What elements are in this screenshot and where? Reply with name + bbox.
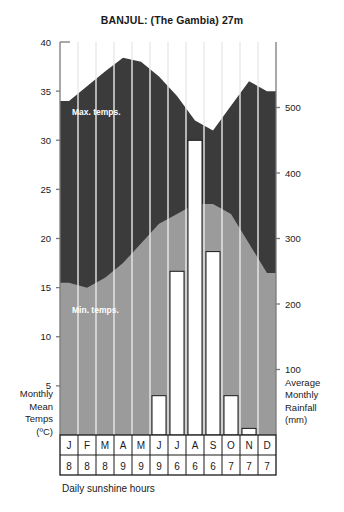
sunshine-hours-value: 7: [264, 461, 270, 472]
sunshine-hours-value: 7: [246, 461, 252, 472]
left-tick-label: 40: [40, 37, 51, 48]
sunshine-hours-value: 7: [228, 461, 234, 472]
footer-caption: Daily sunshine hours: [62, 483, 155, 494]
rainfall-bar: [188, 140, 202, 435]
chart-svg: 510152025303540100200300400500Max. temps…: [0, 0, 344, 512]
month-label: M: [137, 440, 145, 451]
right-axis-caption-line: (mm): [285, 414, 307, 425]
month-label: M: [101, 440, 109, 451]
right-tick-label: 100: [285, 364, 301, 375]
month-label: J: [67, 440, 72, 451]
left-tick-label: 10: [40, 331, 51, 342]
right-tick-label: 200: [285, 299, 301, 310]
sunshine-hours-value: 8: [84, 461, 90, 472]
sunshine-hours-value: 9: [156, 461, 162, 472]
right-tick-label: 400: [285, 168, 301, 179]
left-tick-label: 15: [40, 282, 51, 293]
right-axis-caption-line: Monthly: [285, 389, 319, 400]
month-label: J: [175, 440, 180, 451]
sunshine-hours-value: 9: [120, 461, 126, 472]
rainfall-bar: [206, 252, 220, 435]
rainfall-bar: [224, 396, 238, 435]
left-axis-caption-line: Monthly: [20, 388, 54, 399]
left-axis-caption-line: Temps: [25, 413, 53, 424]
month-label: F: [84, 440, 90, 451]
month-label: A: [120, 440, 127, 451]
sunshine-hours-value: 9: [138, 461, 144, 472]
rainfall-bar: [242, 428, 256, 435]
left-tick-label: 35: [40, 86, 51, 97]
sunshine-hours-value: 6: [210, 461, 216, 472]
month-label: O: [227, 440, 235, 451]
left-tick-label: 20: [40, 233, 51, 244]
min-temps-label: Min. temps.: [72, 305, 119, 315]
left-axis-caption-line: (ºC): [36, 426, 53, 437]
month-label: J: [157, 440, 162, 451]
right-axis-caption-line: Rainfall: [285, 402, 317, 413]
month-label: A: [192, 440, 199, 451]
climate-graph: BANJUL: (The Gambia) 27m 510152025303540…: [0, 0, 344, 512]
left-tick-label: 25: [40, 184, 51, 195]
left-axis-caption-line: Mean: [29, 401, 53, 412]
max-temps-label: Max. temps.: [72, 107, 121, 117]
sunshine-hours-value: 8: [102, 461, 108, 472]
month-label: N: [245, 440, 252, 451]
right-tick-label: 300: [285, 233, 301, 244]
left-tick-label: 30: [40, 135, 51, 146]
sunshine-hours-value: 6: [174, 461, 180, 472]
rainfall-bar: [152, 396, 166, 435]
sunshine-hours-value: 6: [192, 461, 198, 472]
rainfall-bar: [170, 271, 184, 435]
month-label: D: [263, 440, 270, 451]
sunshine-hours-value: 8: [66, 461, 72, 472]
month-label: S: [210, 440, 217, 451]
right-tick-label: 500: [285, 102, 301, 113]
right-axis-caption-line: Average: [285, 377, 320, 388]
